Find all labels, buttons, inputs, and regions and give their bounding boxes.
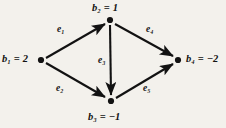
edge-e1 <box>46 24 105 58</box>
edge-label-e5: e₅ <box>143 84 151 94</box>
edge-e4 <box>115 24 173 56</box>
node-label-b2: b₂ = 1 <box>92 3 118 14</box>
edge-label-e2: e₂ <box>56 84 64 94</box>
network-flow-diagram: b₁ = 2 b₂ = 1 b₃ = −1 b₄ = −2 e₁ e₂ e₃ e… <box>0 0 226 128</box>
node-dot-b2 <box>107 17 113 23</box>
edge-e2 <box>46 63 105 97</box>
edge-label-e1: e₁ <box>57 25 65 35</box>
node-dot-b4 <box>175 57 181 63</box>
node-label-b1: b₁ = 2 <box>2 54 28 65</box>
edge-e3 <box>110 25 111 95</box>
node-label-b4: b₄ = −2 <box>186 54 218 65</box>
node-label-b3: b₃ = −1 <box>88 112 120 123</box>
node-dot-b3 <box>108 98 114 104</box>
edge-label-e4: e₄ <box>146 25 154 35</box>
edge-label-e3: e₃ <box>98 56 106 66</box>
node-dot-b1 <box>38 57 44 63</box>
